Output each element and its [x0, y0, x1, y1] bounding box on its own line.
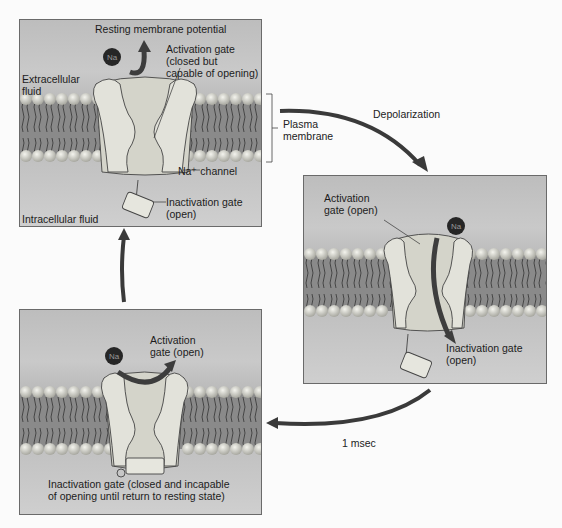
- activation-gate-label: Activation gate (closed but capable of o…: [166, 43, 258, 79]
- panel-resting-state: Na Resting membrane potential Activation…: [19, 19, 262, 227]
- svg-text:Na: Na: [451, 222, 462, 231]
- activation-gate-label: Activation gate (open): [150, 334, 204, 358]
- depolarization-label: Depolarization: [373, 108, 440, 120]
- svg-text:Na: Na: [109, 352, 120, 361]
- time-label: 1 msec: [342, 437, 376, 449]
- plasma-membrane-bracket: [266, 94, 278, 162]
- panel-depolarized-state: Na Activation gate (open) Inactivation g…: [303, 175, 547, 384]
- panel-inactivated-state: Na Activation gate (open) Inactivation g…: [19, 309, 262, 515]
- intracellular-label: Intracellular fluid: [22, 213, 98, 225]
- inactivation-gate-label: Inactivation gate (open): [446, 342, 522, 366]
- svg-text:Na: Na: [107, 53, 118, 62]
- plasma-membrane-label: Plasma membrane: [283, 118, 333, 142]
- activation-gate-arrow: [130, 50, 144, 73]
- return-arrow: [122, 236, 124, 302]
- time-arrow: [275, 390, 430, 424]
- extracellular-label: Extracellular fluid: [22, 73, 80, 97]
- inactivation-gate-plug: [126, 458, 164, 474]
- na-channel-inactivated: [101, 372, 188, 477]
- inactivation-gate-label: Inactivation gate (closed and incapable …: [48, 478, 230, 502]
- na-channel-label: Na⁺ channel: [178, 165, 237, 177]
- resting-title: Resting membrane potential: [95, 23, 226, 35]
- activation-gate-label: Activation gate (open): [324, 192, 378, 216]
- inactivation-gate-label: Inactivation gate (open): [166, 196, 242, 220]
